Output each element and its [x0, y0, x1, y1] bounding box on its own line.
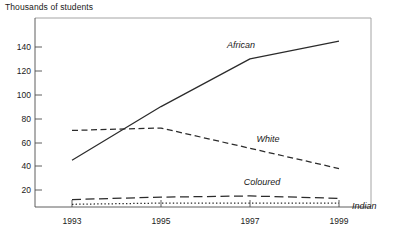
series-line-indian — [72, 203, 339, 204]
x-tick-label-1997: 1997 — [241, 216, 260, 226]
frame-top-right — [35, 18, 371, 207]
y-tick-label-100: 100 — [17, 90, 31, 100]
y-tick-label-40: 40 — [22, 161, 32, 171]
axis-left-bottom — [35, 18, 371, 207]
series-annotations: African White Coloured Indian — [226, 40, 377, 211]
y-tick-label-140: 140 — [17, 42, 31, 52]
y-tick-label-120: 120 — [17, 66, 31, 76]
chart-figure: Thousands of students 140 120 100 80 60 … — [0, 0, 399, 246]
series-label-indian: Indian — [352, 201, 377, 211]
series-line-coloured — [72, 196, 339, 200]
y-tick-label-60: 60 — [22, 138, 32, 148]
line-chart-plot: 140 120 100 80 60 40 20 1993 1995 1997 1… — [0, 0, 399, 246]
x-axis-labels: 1993 1995 1997 1999 — [63, 216, 349, 226]
x-tick-label-1995: 1995 — [152, 216, 171, 226]
plot-frame — [35, 18, 371, 207]
series-label-coloured: Coloured — [244, 177, 282, 187]
y-axis-ticks — [35, 47, 42, 190]
y-tick-label-20: 20 — [22, 185, 32, 195]
y-axis-labels: 140 120 100 80 60 40 20 — [17, 42, 31, 195]
data-series-group — [72, 41, 339, 204]
series-label-white: White — [256, 134, 279, 144]
series-line-white — [72, 128, 339, 169]
y-tick-label-80: 80 — [22, 114, 32, 124]
x-tick-label-1993: 1993 — [63, 216, 82, 226]
series-label-african: African — [226, 40, 255, 50]
x-tick-label-1999: 1999 — [330, 216, 349, 226]
series-line-african — [72, 41, 339, 160]
